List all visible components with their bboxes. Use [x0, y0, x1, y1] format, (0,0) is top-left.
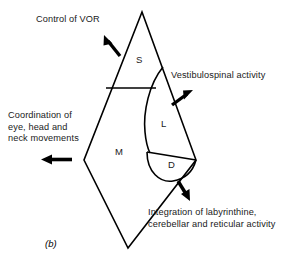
arrow-control-of-vor-icon [104, 35, 121, 56]
region-label-m: M [115, 146, 123, 157]
annotation-control-of-vor: Control of VOR [36, 14, 100, 26]
annotation-vestibulospinal-activity: Vestibulospinal activity [171, 70, 265, 82]
arrow-coordination-icon [41, 155, 72, 165]
arrow-vestibulospinal-icon [172, 90, 193, 105]
region-label-s: S [136, 54, 142, 65]
arrow-integration-icon [178, 181, 190, 201]
annotation-coordination-eye-head-neck: Coordination of eye, head and neck movem… [8, 110, 79, 145]
region-label-d: D [168, 159, 175, 170]
figure-caption: (b) [45, 238, 57, 249]
region-label-l: L [161, 118, 166, 129]
annotation-integration-labyrinthine: Integration of labyrinthine, cerebellar … [148, 207, 275, 230]
curve-l-left-boundary [145, 67, 163, 153]
vestibular-nuclei-diagram: S L M D Control of VOR Vestibulospinal a… [0, 0, 293, 269]
